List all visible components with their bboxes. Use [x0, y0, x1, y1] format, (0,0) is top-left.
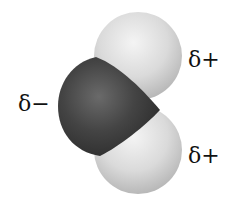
hydrogen-top-partial-charge-label: δ+: [188, 49, 220, 71]
hydrogen-bottom-partial-charge-label: δ+: [188, 145, 220, 167]
oxygen-partial-charge-label: δ−: [18, 93, 50, 115]
